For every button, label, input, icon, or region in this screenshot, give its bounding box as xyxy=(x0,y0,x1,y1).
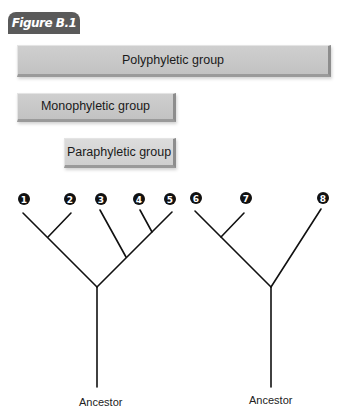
svg-text:2: 2 xyxy=(67,195,73,205)
monophyletic-group-bar: Monophyletic group xyxy=(17,93,176,122)
svg-text:4: 4 xyxy=(136,195,142,205)
svg-text:1: 1 xyxy=(21,195,27,205)
svg-text:7: 7 xyxy=(243,194,249,204)
left-tree-branches xyxy=(23,210,172,387)
paraphyletic-group-bar: Paraphyletic group xyxy=(64,138,176,168)
node-1: 1 xyxy=(18,193,30,205)
node-6: 6 xyxy=(190,192,202,204)
node-8: 8 xyxy=(317,192,329,204)
svg-text:5: 5 xyxy=(167,195,173,205)
svg-text:3: 3 xyxy=(98,195,104,205)
ancestor-label-left: Ancestor xyxy=(79,396,122,408)
svg-text:8: 8 xyxy=(320,194,326,204)
node-2: 2 xyxy=(64,193,76,205)
node-7: 7 xyxy=(240,192,252,204)
phylogenetic-trees: 1 2 3 4 5 6 7 8 xyxy=(0,185,345,395)
polyphyletic-group-bar: Polyphyletic group xyxy=(17,45,331,77)
right-tree-branches xyxy=(195,209,321,387)
ancestor-label-right: Ancestor xyxy=(249,394,292,406)
node-5: 5 xyxy=(164,193,176,205)
node-4: 4 xyxy=(133,193,145,205)
figure-title-tab: Figure B.1 xyxy=(8,12,80,34)
svg-text:6: 6 xyxy=(193,194,199,204)
node-3: 3 xyxy=(95,193,107,205)
